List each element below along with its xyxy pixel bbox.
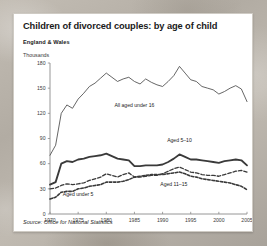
y-axis-tick-label: 120: [37, 110, 46, 116]
y-axis-tick-label: 90: [40, 135, 46, 141]
y-axis-tick-label: 60: [40, 160, 46, 166]
x-axis-tick-label: 1985: [129, 217, 140, 223]
y-axis-tick-label: 180: [37, 60, 46, 66]
chart-source: Source: Office for National Statistics: [23, 219, 113, 225]
series-annotation: Aged under 5: [63, 191, 94, 197]
chart-card: Children of divorced couples: by age of …: [13, 13, 253, 232]
series-line-aged-11-15: [50, 167, 247, 189]
x-axis-tick-label: 2005: [241, 217, 252, 223]
series-annotation: Aged 5–10: [167, 137, 192, 143]
y-axis-tick-label: 30: [40, 186, 46, 192]
x-axis-tick-label: 1995: [185, 217, 196, 223]
line-chart-plot: 0306090120150180197019751980198519901995…: [14, 14, 253, 232]
x-axis-tick-label: 1990: [157, 217, 168, 223]
chart-svg: 0306090120150180197019751980198519901995…: [14, 14, 253, 232]
series-annotation: Aged 11–15: [160, 181, 187, 187]
series-annotation: All aged under 16: [114, 102, 154, 108]
series-line-all-aged-under-16: [50, 66, 247, 155]
x-axis-tick-label: 2000: [213, 217, 224, 223]
series-line-aged-5-10: [50, 154, 247, 185]
y-axis-tick-label: 150: [37, 85, 46, 91]
y-axis-tick-label: 0: [43, 211, 46, 217]
